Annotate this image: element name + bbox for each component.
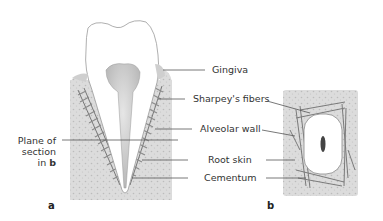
panel-b-illustration	[283, 90, 358, 196]
tooth-diagram	[0, 0, 383, 221]
label-gingiva: Gingiva	[212, 64, 248, 75]
label-alveolar-wall: Alveolar wall	[200, 123, 261, 134]
label-sharpeys-fibers: Sharpey's fibers	[193, 93, 270, 104]
root-canal	[321, 136, 326, 152]
label-plane-of-section: Plane of section in b	[6, 135, 56, 168]
panel-label-b: b	[267, 200, 274, 211]
panel-a-illustration	[70, 21, 172, 200]
panel-label-a: a	[48, 200, 55, 211]
label-root-skin: Root skin	[208, 154, 252, 165]
label-cementum: Cementum	[204, 172, 257, 183]
